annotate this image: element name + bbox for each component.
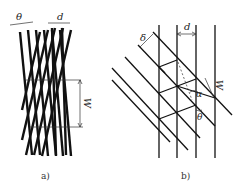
panel-b-connectors <box>159 60 215 119</box>
panel-b-w-label: W <box>214 80 224 90</box>
panel-b-caption: b) <box>181 172 190 181</box>
panel-a-theta-label: θ <box>16 12 22 22</box>
panel-a-w-label: W <box>82 98 92 108</box>
panel-b-theta-label: θ <box>197 113 202 122</box>
panel-b-diagonal-lines <box>112 32 232 150</box>
panel-a-caption: a) <box>41 172 50 181</box>
panel-a-lines <box>20 28 71 156</box>
panel-b-vertical-lines <box>159 25 215 158</box>
panel-b-d-label: d <box>184 22 190 32</box>
panel-a-d-label: d <box>57 12 63 22</box>
panel-b-delta-label: δ <box>140 33 146 43</box>
panel-b-alpha-label: α <box>196 90 202 99</box>
